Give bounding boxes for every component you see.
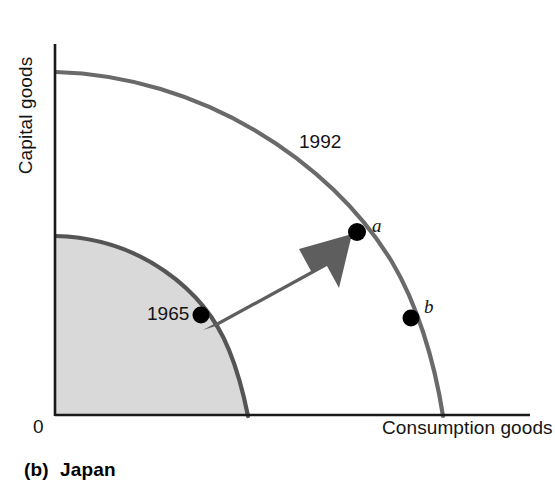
point-marker-1965 (193, 307, 210, 324)
y-axis-label: Capital goods (16, 31, 35, 201)
point-marker-a (348, 223, 366, 241)
x-axis-label: Consumption goods (382, 418, 553, 437)
curve-label-1965: 1965 (147, 304, 189, 323)
ppf-figure: Capital goods Consumption goods 0 1992 1… (0, 0, 555, 486)
curve-label-1992: 1992 (299, 132, 341, 151)
ppf-chart-svg (0, 0, 555, 486)
caption-title: Japan (60, 459, 116, 480)
point-label-a: a (372, 216, 382, 235)
growth-arrow (203, 234, 352, 330)
figure-caption: (b)Japan (24, 459, 116, 481)
point-marker-b (403, 310, 420, 327)
origin-label: 0 (33, 417, 44, 436)
caption-tag: (b) (24, 459, 49, 480)
y-axis-label-container: Capital goods (0, 28, 44, 218)
point-label-b: b (424, 297, 434, 316)
